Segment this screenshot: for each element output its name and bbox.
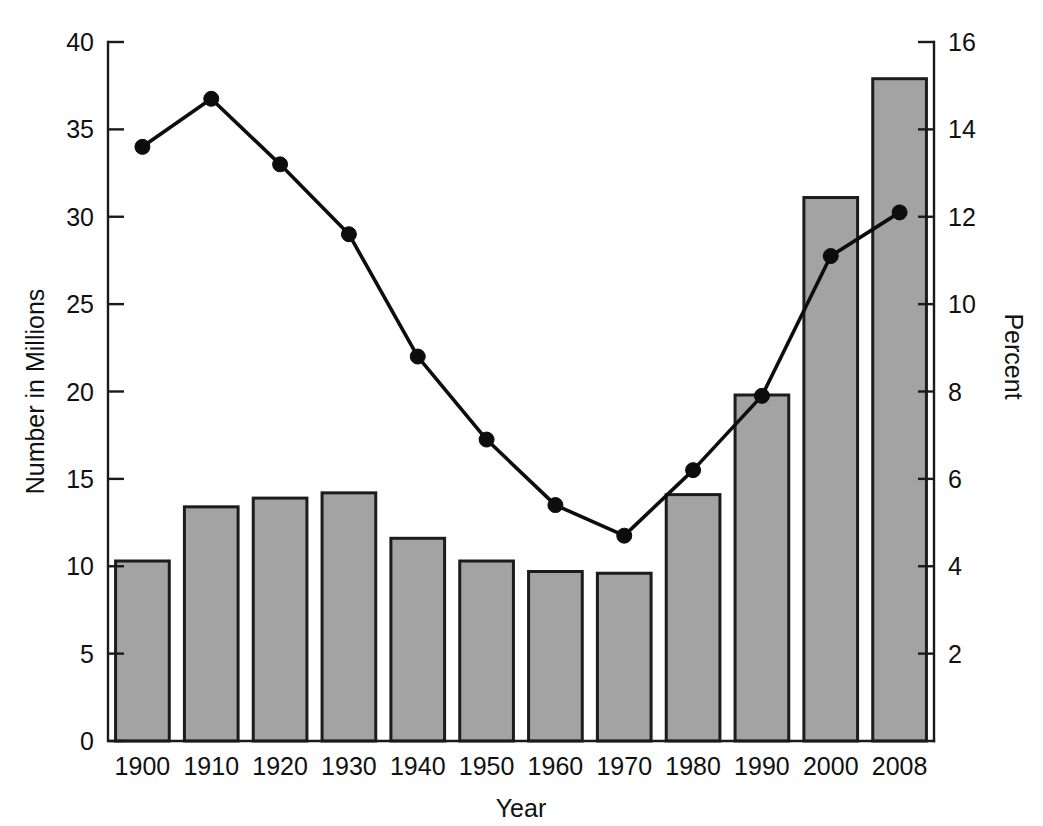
x-tick-label-1920: 1920 (252, 752, 308, 780)
line-point-2008 (892, 205, 907, 220)
x-tick-label-1930: 1930 (321, 752, 377, 780)
bar-1960 (529, 571, 583, 741)
line-point-2000 (823, 249, 838, 264)
x-tick-label-1940: 1940 (390, 752, 446, 780)
bar-2008 (873, 79, 927, 741)
y-tick-label-20: 20 (66, 378, 94, 406)
y-tick-label-40: 40 (66, 28, 94, 56)
bar-1940 (391, 538, 445, 741)
bar-1930 (322, 493, 376, 741)
combo-chart: 0510152025303540246810121416190019101920… (0, 0, 1043, 826)
y2-tick-label-12: 12 (948, 203, 976, 231)
x-tick-label-1900: 1900 (115, 752, 171, 780)
y-axis-title: Number in Millions (21, 289, 49, 495)
line-point-1920 (273, 157, 288, 172)
y2-tick-label-6: 6 (948, 465, 962, 493)
bar-series-group (116, 79, 927, 741)
line-point-1930 (341, 227, 356, 242)
line-series-group (135, 91, 907, 543)
line-point-1990 (754, 388, 769, 403)
bar-1920 (253, 498, 307, 741)
y-tick-label-0: 0 (80, 727, 94, 755)
chart-figure: 0510152025303540246810121416190019101920… (0, 0, 1043, 826)
y-tick-label-15: 15 (66, 465, 94, 493)
y-tick-label-30: 30 (66, 203, 94, 231)
y-tick-label-10: 10 (66, 552, 94, 580)
bar-1950 (460, 561, 514, 741)
y2-tick-label-4: 4 (948, 552, 962, 580)
x-tick-label-1950: 1950 (459, 752, 515, 780)
y-tick-label-25: 25 (66, 290, 94, 318)
line-point-1960 (548, 498, 563, 513)
x-tick-label-1970: 1970 (596, 752, 652, 780)
line-point-1900 (135, 139, 150, 154)
y2-tick-label-2: 2 (948, 640, 962, 668)
x-axis-title: Year (496, 794, 547, 822)
y2-tick-label-14: 14 (948, 115, 976, 143)
x-tick-label-1910: 1910 (183, 752, 239, 780)
y2-tick-label-10: 10 (948, 290, 976, 318)
line-point-1950 (479, 432, 494, 447)
y2-axis-title: Percent (1000, 313, 1028, 399)
bar-1910 (184, 507, 238, 741)
line-point-1910 (204, 91, 219, 106)
y-tick-label-5: 5 (80, 640, 94, 668)
x-tick-label-2000: 2000 (803, 752, 859, 780)
y2-tick-label-16: 16 (948, 28, 976, 56)
y2-tick-label-8: 8 (948, 378, 962, 406)
line-point-1980 (686, 463, 701, 478)
bar-1980 (666, 495, 720, 741)
line-point-1940 (410, 349, 425, 364)
line-point-1970 (617, 528, 632, 543)
bar-2000 (804, 198, 858, 741)
bar-1970 (597, 573, 651, 741)
x-tick-label-1980: 1980 (665, 752, 721, 780)
y-tick-label-35: 35 (66, 115, 94, 143)
x-tick-label-1960: 1960 (528, 752, 584, 780)
x-tick-label-1990: 1990 (734, 752, 790, 780)
bar-1990 (735, 395, 789, 741)
bar-1900 (116, 561, 170, 741)
x-tick-label-2008: 2008 (872, 752, 928, 780)
